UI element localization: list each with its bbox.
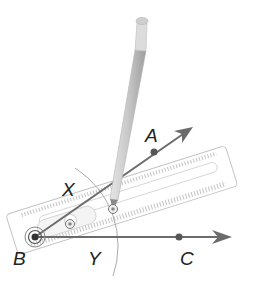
angle-bisector-diagram: B A C X Y xyxy=(0,0,259,283)
label-x: X xyxy=(61,179,76,200)
pivot-icon xyxy=(25,227,45,247)
label-a: A xyxy=(144,125,158,146)
point-a xyxy=(151,149,158,156)
label-y: Y xyxy=(88,248,102,269)
label-b: B xyxy=(13,248,26,269)
point-c xyxy=(176,234,183,241)
label-c: C xyxy=(180,248,194,269)
